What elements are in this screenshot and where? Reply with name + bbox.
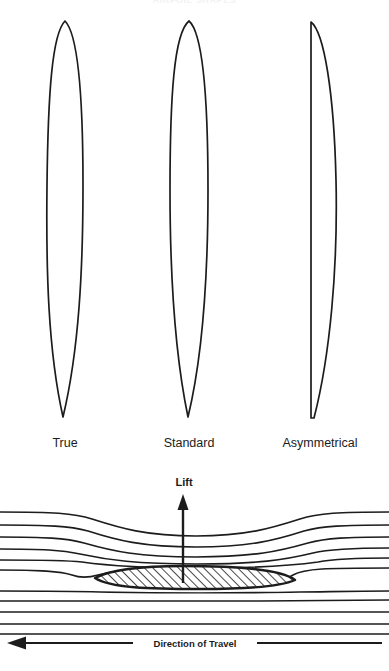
streamlines-lower [0, 591, 389, 634]
travel-arrow-head [7, 637, 26, 650]
streamline-upper-4 [0, 548, 389, 564]
airfoil-outline-asymmetrical [311, 22, 336, 418]
airfoil-profile-standard [170, 21, 208, 417]
shape-labels-row: True Standard Asymmetrical [0, 436, 389, 452]
airfoil-profile-asymmetrical [311, 22, 336, 418]
direction-of-travel-label: Direction of Travel [133, 638, 257, 650]
streamline-lower-2 [0, 600, 389, 601]
lift-arrow-head [178, 494, 189, 510]
shape-label-standard: Standard [132, 436, 246, 451]
airfoil-outline-true [47, 21, 83, 417]
airfoil-profile-true [47, 21, 83, 417]
shape-label-asymmetrical: Asymmetrical [255, 436, 385, 451]
shape-label-true: True [10, 436, 120, 451]
airfoil-figure [0, 0, 389, 671]
wing-shape [95, 566, 295, 589]
airfoil-outline-standard [170, 21, 208, 417]
wing-cross-section [95, 566, 295, 589]
airflow-diagram [0, 494, 389, 650]
streamline-upper-1 [0, 512, 389, 536]
lift-label: Lift [160, 476, 208, 489]
streamline-lower-1 [0, 591, 389, 593]
